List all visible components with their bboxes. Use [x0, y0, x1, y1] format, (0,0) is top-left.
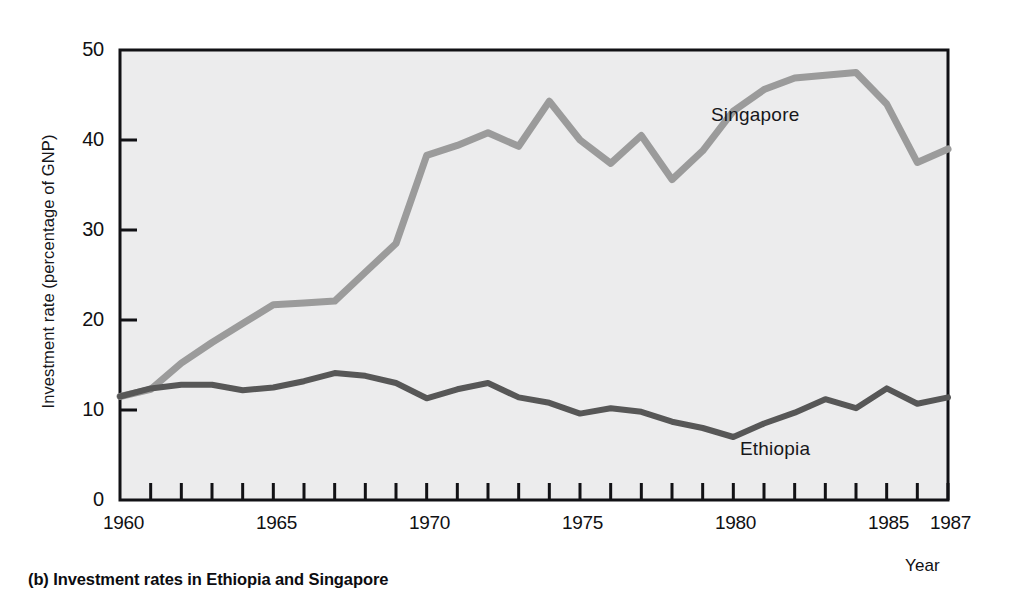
- y-tick-label-30: 30: [58, 218, 104, 241]
- y-tick-label-40: 40: [58, 128, 104, 151]
- x-tick-label-1970: 1970: [409, 512, 450, 534]
- x-axis-title: Year: [905, 556, 940, 576]
- y-tick-label-20: 20: [58, 308, 104, 331]
- series-label-ethiopia: Ethiopia: [740, 438, 810, 460]
- figure-caption: (b) Investment rates in Ethiopia and Sin…: [28, 570, 388, 589]
- y-tick-label-0: 0: [58, 488, 104, 511]
- plot-background: [120, 50, 948, 500]
- x-tick-label-1960: 1960: [103, 512, 144, 534]
- line-chart-plot: [0, 0, 1013, 615]
- y-tick-label-10: 10: [58, 398, 104, 421]
- x-tick-label-1980: 1980: [715, 512, 756, 534]
- x-tick-label-1987: 1987: [930, 512, 971, 534]
- x-tick-label-1975: 1975: [562, 512, 603, 534]
- y-tick-label-50: 50: [58, 38, 104, 61]
- x-tick-label-1985: 1985: [868, 512, 909, 534]
- figure-panel: Investment rate (percentage of GNP) 0 10…: [0, 0, 1013, 615]
- series-label-singapore: Singapore: [711, 104, 799, 126]
- x-tick-label-1965: 1965: [256, 512, 297, 534]
